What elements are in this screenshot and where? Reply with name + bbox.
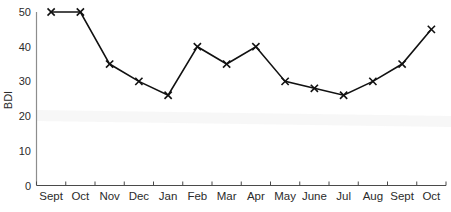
y-axis-tick-label: 40 (19, 41, 31, 53)
x-axis-tick-label: Jul (336, 190, 351, 202)
x-axis-tick-label: Jan (159, 190, 178, 202)
y-axis-tick-label: 0 (25, 180, 31, 192)
data-point-marker (223, 60, 230, 67)
y-axis-title: BDI (2, 91, 14, 109)
x-axis-tick-label: Oct (422, 190, 441, 202)
y-axis-tick-label: 30 (19, 75, 31, 87)
data-point-marker (194, 43, 201, 50)
x-axis-tick-label: Sept (390, 190, 414, 202)
x-axis-tick-label: June (302, 190, 327, 202)
y-axis-tick-labels: 01020304050 (19, 6, 31, 192)
bdi-line-chart: BDI 01020304050 SeptOctNovDecJanFebMarAp… (0, 0, 451, 212)
x-axis-tick-marks (37, 182, 447, 186)
scan-artifact (36, 110, 451, 127)
x-axis-tick-label: Aug (363, 190, 383, 202)
x-axis-tick-label: Oct (71, 190, 90, 202)
y-axis-tick-label: 10 (19, 145, 31, 157)
y-axis-tick-label: 50 (19, 6, 31, 18)
data-point-marker (106, 60, 113, 67)
x-axis-tick-labels: SeptOctNovDecJanFebMarAprMayJuneJulAugSe… (39, 190, 441, 202)
y-axis-title-text: BDI (2, 91, 14, 109)
x-axis-tick-label: Feb (187, 190, 207, 202)
data-point-marker (399, 60, 406, 67)
data-point-marker (252, 43, 259, 50)
y-axis-tick-label: 20 (19, 110, 31, 122)
data-point-marker (369, 78, 376, 85)
x-axis-tick-label: Sept (39, 190, 63, 202)
x-axis-tick-label: May (274, 190, 296, 202)
chart-canvas: BDI 01020304050 SeptOctNovDecJanFebMarAp… (0, 0, 451, 212)
x-axis-tick-label: Dec (129, 190, 150, 202)
x-axis-tick-label: Nov (99, 190, 120, 202)
data-point-marker (165, 92, 172, 99)
data-point-marker (428, 26, 435, 33)
data-point-marker (135, 78, 142, 85)
bdi-series-markers (48, 8, 435, 98)
x-axis-tick-label: Apr (247, 190, 265, 202)
x-axis-tick-label: Mar (217, 190, 237, 202)
